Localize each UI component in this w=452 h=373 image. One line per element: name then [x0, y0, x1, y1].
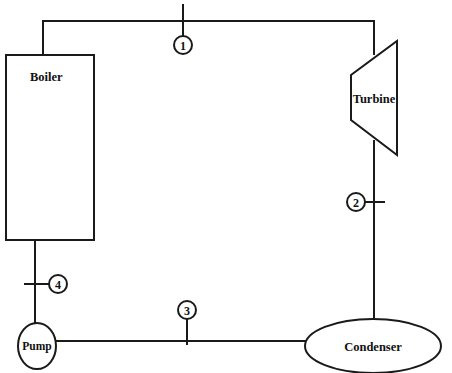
state-marker-4: 4 — [24, 275, 67, 293]
condenser-label: Condenser — [344, 340, 402, 354]
condenser: Condenser — [305, 319, 441, 373]
state-2-label: 2 — [353, 196, 359, 210]
boiler: Boiler — [6, 55, 94, 240]
pipe-boiler-to-turbine — [43, 21, 374, 55]
turbine: Turbine — [351, 41, 397, 155]
turbine-label: Turbine — [353, 92, 396, 106]
state-marker-3: 3 — [178, 301, 196, 345]
pump: Pump — [18, 323, 56, 369]
rankine-cycle-diagram: 1 2 3 4 Boiler Turbine Condenser Pump — [0, 0, 452, 373]
pump-label: Pump — [22, 340, 51, 353]
state-marker-2: 2 — [347, 193, 385, 211]
state-marker-1: 1 — [174, 4, 192, 54]
state-3-label: 3 — [184, 304, 190, 318]
state-1-label: 1 — [180, 39, 186, 53]
boiler-label: Boiler — [30, 70, 63, 84]
state-4-label: 4 — [55, 278, 61, 292]
